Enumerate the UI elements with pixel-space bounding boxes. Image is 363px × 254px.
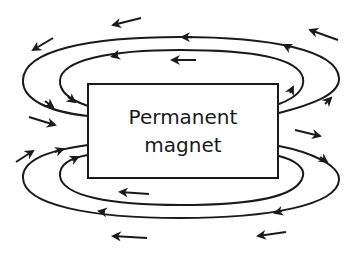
arrow-icon bbox=[325, 98, 331, 104]
arrow-icon bbox=[290, 87, 293, 93]
arrow-icon bbox=[55, 149, 63, 152]
free-arrow-icon bbox=[113, 18, 141, 25]
magnet-label-line1: Permanent bbox=[129, 103, 238, 131]
free-arrow-icon bbox=[310, 30, 338, 40]
free-arrow-icon bbox=[120, 192, 149, 194]
magnet-field-diagram: Permanent magnet bbox=[0, 0, 363, 254]
magnet-label-line2: magnet bbox=[144, 131, 221, 159]
free-arrow-icon bbox=[16, 151, 33, 162]
arrow-icon bbox=[99, 211, 105, 212]
free-arrow-icon bbox=[295, 130, 320, 136]
free-arrow-icon bbox=[258, 232, 286, 236]
free-arrow-icon bbox=[29, 117, 55, 125]
magnet-label: Permanent magnet bbox=[88, 84, 278, 178]
free-arrow-icon bbox=[113, 236, 147, 238]
free-arrow-icon bbox=[33, 38, 53, 50]
arrow-icon bbox=[72, 157, 78, 160]
arrow-icon bbox=[112, 55, 118, 57]
